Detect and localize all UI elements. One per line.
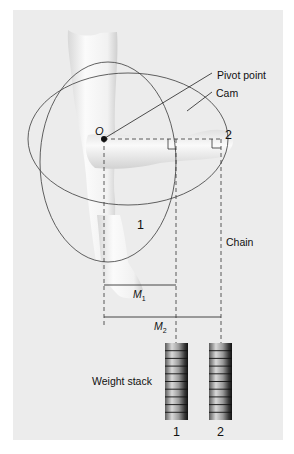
weight-stack-2 (209, 343, 232, 420)
label-stack-2: 2 (217, 425, 224, 439)
weight-stack-1 (165, 343, 188, 420)
label-cam: Cam (216, 87, 238, 99)
label-weight-stack: Weight stack (92, 375, 153, 387)
label-position-1: 1 (137, 218, 144, 232)
label-origin: O (95, 125, 104, 137)
cam-moment-arm-diagram: Pivot point Cam O 2 1 Chain M1 M2 Weight… (0, 0, 294, 454)
label-position-2: 2 (225, 128, 232, 142)
label-stack-1: 1 (173, 425, 180, 439)
label-pivot-point: Pivot point (217, 69, 266, 81)
label-chain: Chain (226, 236, 254, 248)
